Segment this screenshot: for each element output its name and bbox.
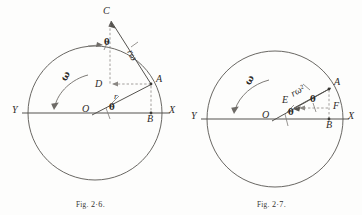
point-label-b: B <box>326 120 332 130</box>
figure-caption: Fig. 2·6. <box>0 200 181 209</box>
omega-arc-arrowhead <box>51 103 59 110</box>
axis-label-y: Y <box>191 111 197 121</box>
angle-tick-at-a <box>313 103 316 112</box>
caption-prefix: Fig. <box>257 201 270 209</box>
angle-label-theta-top: θ <box>104 38 110 47</box>
caption-number: 2·6. <box>91 200 105 209</box>
figure-2-6: C A D O B Y X r θ θ ω rω Fig. 2·6. <box>0 0 181 215</box>
point-dot-a <box>150 83 153 86</box>
angle-label-theta-center: θ <box>109 103 115 112</box>
dashed-da-arrowhead <box>112 82 118 87</box>
figure-caption: Fig. 2·7. <box>181 200 362 209</box>
axis-label-y: Y <box>12 105 18 115</box>
point-label-o: O <box>262 110 269 120</box>
axis-label-x: X <box>348 111 354 121</box>
caption-number: 2·7. <box>272 200 286 209</box>
point-label-e: E <box>282 95 288 105</box>
angle-label-theta-center: θ <box>288 108 294 117</box>
point-label-b: B <box>147 114 153 124</box>
figure-2-6-drawing <box>0 0 181 215</box>
point-label-o: O <box>82 104 89 114</box>
caption-prefix: Fig. <box>76 201 89 209</box>
figure-2-7: A E F O B Y X θ θ ω rω² Fig. 2·7. <box>181 0 362 215</box>
point-label-d: D <box>95 79 102 89</box>
radius-label-r: r <box>114 92 118 101</box>
point-label-c: C <box>103 6 110 16</box>
omega-arc <box>55 75 88 106</box>
point-label-a: A <box>156 74 162 84</box>
dashed-fe-arrowhead <box>299 106 305 111</box>
omega-arc-arrowhead <box>231 107 239 114</box>
point-label-f: F <box>333 101 339 111</box>
point-dot-a <box>328 88 331 91</box>
point-label-a: A <box>334 77 340 87</box>
axis-label-x: X <box>169 105 175 115</box>
angle-label-theta-at-a: θ <box>310 95 316 104</box>
figure-page: C A D O B Y X r θ θ ω rω Fig. 2·6. <box>0 0 362 215</box>
